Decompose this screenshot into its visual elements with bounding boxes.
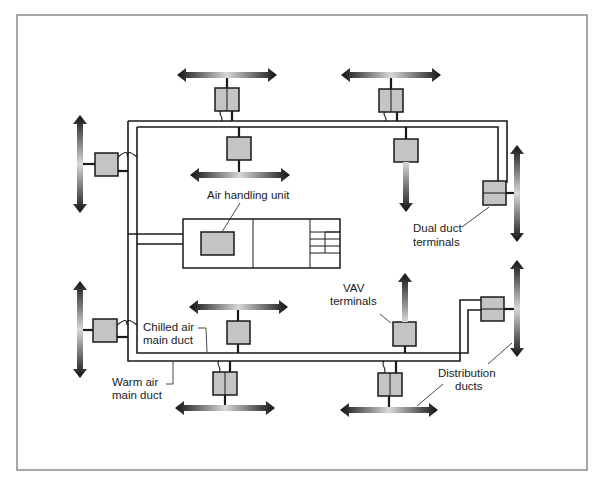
label-air-handling-unit: Air handling unit — [207, 189, 290, 201]
dual-duct-terminal-top-right — [379, 89, 403, 112]
label-dual-duct-2: terminals — [413, 236, 460, 248]
label-dual-duct-1: Dual duct — [413, 222, 462, 234]
label-warm-air-2: main duct — [112, 389, 163, 401]
air-handling-unit — [183, 219, 340, 268]
label-chilled-air-2: main duct — [143, 334, 194, 346]
label-vav-1: VAV — [343, 282, 365, 294]
fan-coil — [201, 232, 234, 255]
dual-duct-terminal-bottom-right — [378, 373, 402, 396]
dual-duct-terminal-top-left — [215, 88, 239, 111]
vav-terminal-top-right — [394, 139, 418, 162]
dual-duct-terminal-left-upper — [95, 153, 118, 176]
label-warm-air-1: Warm air — [112, 376, 158, 388]
vav-terminal-top-left — [227, 137, 251, 160]
hvac-diagram: Air handling unit Dual duct terminals VA… — [0, 0, 599, 485]
dual-duct-terminal-right-upper — [483, 181, 506, 205]
dual-duct-terminal-bottom-left — [213, 372, 237, 395]
label-distribution-1: Distribution — [438, 367, 496, 379]
label-distribution-2: ducts — [455, 380, 483, 392]
label-vav-2: terminals — [330, 295, 377, 307]
dual-duct-terminal-left-lower — [93, 319, 117, 342]
vav-terminal-bottom-right — [393, 322, 416, 346]
label-chilled-air-1: Chilled air — [143, 321, 194, 333]
dual-duct-terminal-right-lower — [481, 297, 504, 321]
vav-terminal-bottom-left — [227, 321, 250, 344]
